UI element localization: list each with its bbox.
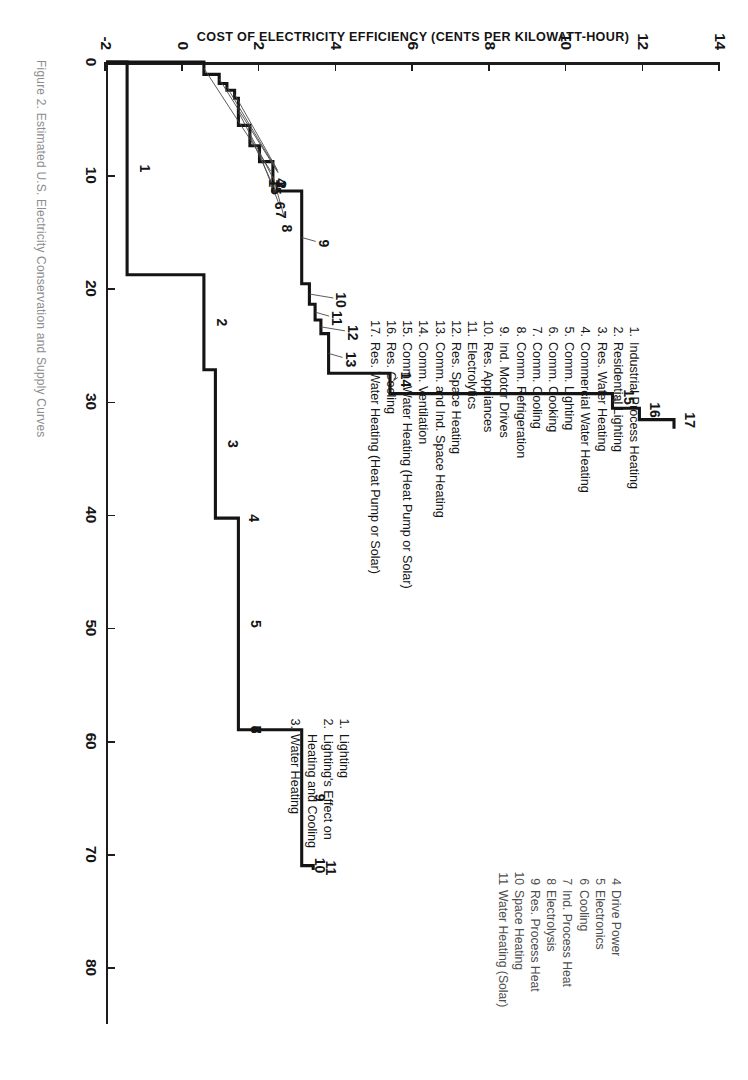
legend-item: 4.Commercial Water Heating <box>577 320 593 589</box>
leader-line <box>219 79 278 173</box>
step-label: 4 <box>273 178 289 186</box>
legend-item-label: Drive Power <box>609 890 623 956</box>
legend-item-number: 2. <box>320 712 336 729</box>
plot-area: 01020304050607080 -202468101214 COST OF … <box>106 62 720 1024</box>
legend-item: 5Electronics <box>592 870 608 1007</box>
x-tick-label: 40 <box>82 506 100 523</box>
figure: 01020304050607080 -202468101214 COST OF … <box>0 0 748 1080</box>
step-label: 9 <box>316 240 332 248</box>
step-label: 4 <box>246 514 262 522</box>
legend-item: 7Ind. Process Heat <box>559 870 575 1007</box>
legend-item-label: Water Heating (Solar) <box>496 890 510 1007</box>
legend-item-label: Res. Cooling <box>384 342 398 414</box>
legend-item: 9.Ind. Motor Drives <box>496 320 512 589</box>
legend-enduse-right: 4Drive Power5Electronics6Cooling7Ind. Pr… <box>494 870 624 1007</box>
leader-line <box>302 237 316 241</box>
leader-line <box>315 312 329 316</box>
legend-item-label: Ind. Process Heat <box>560 890 574 987</box>
step-label: 7 <box>274 211 290 219</box>
step-label: 8 <box>248 726 264 734</box>
legend-item-label: Lighting's Effect on <box>321 734 335 840</box>
leader-line <box>238 112 273 179</box>
legend-item: 3.Water Heating <box>287 712 303 848</box>
legend-item-label: Res. Water Heating <box>595 342 609 451</box>
legend-item-number: 17. <box>367 320 383 337</box>
leader-line <box>321 327 345 331</box>
legend-item: 12.Res. Space Heating <box>448 320 464 589</box>
legend-item: 15.Comm. Water Heating (Heat Pump or Sol… <box>399 320 415 589</box>
legend-item-label: Water Heating <box>288 734 302 814</box>
legend-item: 4Drive Power <box>608 870 624 1007</box>
legend-item-label: Space Heating <box>512 890 526 970</box>
legend-item-number: 8. <box>512 320 528 337</box>
legend-item-number: 10 <box>511 870 527 885</box>
legend-item-label: Lighting <box>337 734 351 778</box>
legend-item-number: 3. <box>593 320 609 337</box>
x-tick-label: 30 <box>82 393 100 410</box>
step-label: 11 <box>329 311 345 326</box>
legend-item: 13.Comm. and Ind. Space Heating <box>431 320 447 589</box>
legend-item-number: 3. <box>287 712 303 729</box>
step-label: 12 <box>345 325 361 341</box>
legend-item: 5.Comm. Lighting <box>561 320 577 589</box>
legend-item-label: Comm. and Ind. Space Heating <box>433 342 447 518</box>
x-tick-label: 80 <box>82 959 100 976</box>
legend-item-number: 6 <box>575 870 591 885</box>
legend-item: 10Space Heating <box>511 870 527 1007</box>
step-label: 8 <box>279 224 295 232</box>
step-label: 6 <box>272 202 288 210</box>
legend-item-number: 14. <box>415 320 431 337</box>
x-tick-label: 0 <box>82 58 100 66</box>
legend-item: 9Res. Process Heat <box>527 870 543 1007</box>
legend-item-number: 1. <box>626 320 642 337</box>
legend-item-number: 4 <box>608 870 624 885</box>
legend-item-number: 10. <box>480 320 496 337</box>
leader-line <box>309 294 333 298</box>
legend-item: 11.Electrolytics <box>464 320 480 589</box>
legend-item-number: 8 <box>543 870 559 885</box>
legend-item: 8Electrolysis <box>543 870 559 1007</box>
legend-item: 8.Comm. Refrigeration <box>512 320 528 589</box>
x-tick-label: 20 <box>82 280 100 297</box>
legend-item-label: Electrolysis <box>544 890 558 952</box>
legend-item: 2.Lighting's Effect on <box>320 712 336 848</box>
legend-item-number: 15. <box>399 320 415 337</box>
legend-item-label: Heating and Cooling <box>305 734 319 848</box>
step-label: 1 <box>137 164 153 172</box>
legend-item: 16.Res. Cooling <box>383 320 399 589</box>
step-label: 17 <box>682 412 698 428</box>
leader-line <box>227 87 278 172</box>
step-label: 3 <box>225 440 241 448</box>
legend-item-number: 5. <box>561 320 577 337</box>
legend-item-label: Res. Water Heating (Heat Pump or Solar) <box>368 342 382 574</box>
legend-item: 10.Res. Appliances <box>480 320 496 589</box>
legend-item-number: 16. <box>383 320 399 337</box>
legend-item-label: Comm. Water Heating (Heat Pump or Solar) <box>400 342 414 589</box>
legend-item-label: Residential Lighting <box>611 342 625 452</box>
legend-item-label: Industrial Process Heating <box>627 342 641 489</box>
step-label: 2 <box>214 318 230 326</box>
legend-item-label: Ind. Motor Drives <box>497 342 511 438</box>
legend-enduse-left: 1.Lighting2.Lighting's Effect onHeating … <box>287 712 352 848</box>
step-label: 10 <box>333 292 349 308</box>
rotated-page-container: 01020304050607080 -202468101214 COST OF … <box>0 0 748 1080</box>
legend-item: 7.Comm. Cooling <box>529 320 545 589</box>
legend-item-label: Comm. Ventilation <box>416 342 430 444</box>
legend-item-label: Res. Space Heating <box>449 342 463 454</box>
legend-item-label: Comm. Cooling <box>530 342 544 429</box>
legend-item: 6.Comm. Cooking <box>545 320 561 589</box>
x-tick-label: 50 <box>82 619 100 636</box>
legend-item-label: Comm. Refrigeration <box>514 342 528 458</box>
leader-line <box>204 68 271 171</box>
step-label: 5 <box>248 620 264 628</box>
legend-item: 6Cooling <box>575 870 591 1007</box>
legend-item-number: 11. <box>464 320 480 337</box>
legend-item-label: Commercial Water Heating <box>578 342 592 493</box>
leader-line <box>235 94 278 170</box>
legend-item-number: 11 <box>494 870 510 885</box>
y-axis-label: COST OF ELECTRICITY EFFICIENCY (CENTS PE… <box>106 30 720 48</box>
legend-item-label: Res. Appliances <box>481 342 495 432</box>
step-label: 16 <box>647 402 663 418</box>
legend-item-label: Res. Process Heat <box>528 890 542 992</box>
legend-item-number: 7. <box>529 320 545 337</box>
